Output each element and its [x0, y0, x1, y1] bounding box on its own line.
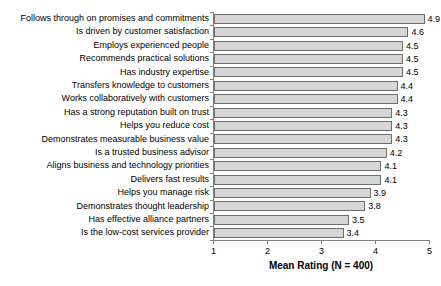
category-label: Demonstrates thought leadership [0, 200, 209, 213]
bar [214, 175, 381, 185]
value-label: 4.3 [395, 134, 408, 144]
bar [214, 148, 387, 158]
value-label: 4.4 [401, 81, 414, 91]
category-label: Transfers knowledge to customers [0, 79, 209, 92]
bar [214, 188, 371, 198]
x-tick-label: 3 [319, 246, 324, 256]
value-label: 4.3 [395, 108, 408, 118]
y-axis-line [213, 12, 214, 241]
category-label: Delivers fast results [0, 173, 209, 186]
x-tick-label: 5 [427, 246, 432, 256]
value-label: 4.3 [395, 121, 408, 131]
value-label: 4.1 [384, 175, 397, 185]
x-axis-tick [213, 241, 214, 244]
value-label: 3.9 [374, 188, 387, 198]
bar [214, 94, 398, 104]
category-label: Employs experienced people [0, 39, 209, 52]
bar [214, 14, 425, 24]
category-label: Recommends practical solutions [0, 52, 209, 65]
bar [214, 41, 403, 51]
category-label: Helps you reduce cost [0, 119, 209, 132]
category-label: Demonstrates measurable business value [0, 133, 209, 146]
bar [214, 121, 392, 131]
x-axis-tick [375, 241, 376, 244]
category-label: Has industry expertise [0, 66, 209, 79]
bar [214, 81, 398, 91]
value-label: 4.1 [384, 161, 397, 171]
x-tick-label: 1 [211, 246, 216, 256]
category-label: Aligns business and technology prioritie… [0, 159, 209, 172]
value-label: 4.6 [411, 27, 424, 37]
value-label: 4.2 [390, 148, 403, 158]
category-label: Follows through on promises and commitme… [0, 12, 209, 25]
x-tick-label: 2 [265, 246, 270, 256]
bar [214, 67, 403, 77]
category-label: Is driven by customer satisfaction [0, 25, 209, 38]
bar [214, 27, 408, 37]
value-label: 4.5 [406, 54, 419, 64]
bar [214, 54, 403, 64]
horizontal-bar-chart: Mean Rating (N = 400) Follows through on… [0, 0, 441, 286]
value-label: 3.4 [347, 228, 360, 238]
value-label: 4.4 [401, 94, 414, 104]
value-label: 4.5 [406, 41, 419, 51]
value-label: 3.8 [368, 201, 381, 211]
category-label: Is a trusted business advisor [0, 146, 209, 159]
value-label: 4.9 [428, 14, 441, 24]
value-label: 4.5 [406, 67, 419, 77]
bar [214, 134, 392, 144]
category-label: Is the low-cost services provider [0, 226, 209, 239]
x-axis-tick [429, 241, 430, 244]
bar [214, 201, 365, 211]
category-label: Helps you manage risk [0, 186, 209, 199]
x-axis-title: Mean Rating (N = 400) [269, 260, 373, 271]
category-label: Has a strong reputation built on trust [0, 106, 209, 119]
bar [214, 161, 381, 171]
x-tick-label: 4 [373, 246, 378, 256]
x-axis-tick [321, 241, 322, 244]
value-label: 3.5 [352, 215, 365, 225]
category-label: Has effective alliance partners [0, 213, 209, 226]
x-axis-tick [267, 241, 268, 244]
bar [214, 108, 392, 118]
category-label: Works collaboratively with customers [0, 92, 209, 105]
bar [214, 215, 349, 225]
bar [214, 228, 344, 238]
